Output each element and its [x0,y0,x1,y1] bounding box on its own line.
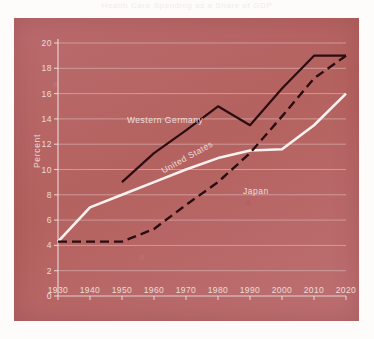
x-tick-label: 2020 [329,285,363,295]
series-label-japan: Japan [243,186,269,196]
x-tick-label: 1990 [233,285,267,295]
y-tick-label: 18 [26,63,52,73]
faint-title: Health Care Spending as a Share of GDP [0,0,374,12]
y-tick-label: 8 [26,190,52,200]
y-tick-label: 16 [26,89,52,99]
y-axis-label: Percent [32,116,42,186]
plot-area [14,18,359,321]
x-tick-label: 1960 [137,285,171,295]
x-tick-label: 1940 [73,285,107,295]
y-tick-label: 20 [26,38,52,48]
x-axis-ticks: 1930194019501960197019801990200020102020 [14,285,359,299]
x-tick-label: 2010 [297,285,331,295]
x-tick-label: 1970 [169,285,203,295]
x-tick-label: 2000 [265,285,299,295]
x-tick-label: 1950 [105,285,139,295]
chart-panel: 02468101214161820 1930194019501960197019… [14,18,359,321]
y-tick-label: 6 [26,215,52,225]
chart-svg [14,18,359,321]
y-tick-label: 2 [26,266,52,276]
y-tick-label: 4 [26,240,52,250]
series-label-western-germany: Western Germany [127,115,203,125]
x-tick-label: 1930 [41,285,75,295]
x-tick-label: 1980 [201,285,235,295]
chart-root: Health Care Spending as a Share of GDP 0… [0,0,374,339]
